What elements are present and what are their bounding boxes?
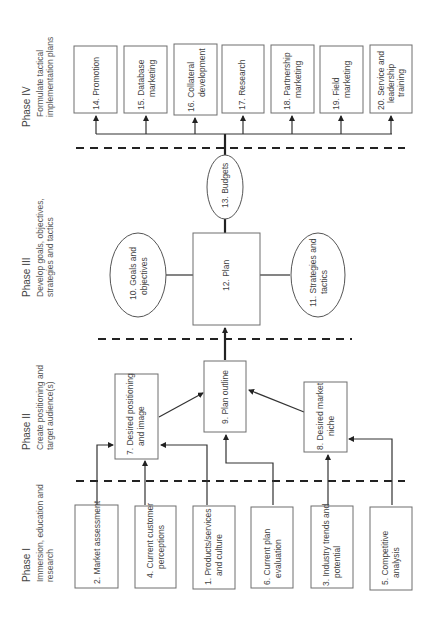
svg-text:Phase IV: Phase IV bbox=[21, 86, 32, 127]
marketing-plan-flowchart: Phase I Immersion, education and researc… bbox=[0, 0, 424, 639]
svg-text:strategies and tactics: strategies and tactics bbox=[45, 217, 55, 297]
svg-text:15. Database: 15. Database bbox=[136, 59, 146, 110]
svg-text:Develop goals, objectives,: Develop goals, objectives, bbox=[35, 198, 45, 297]
svg-text:14. Promotion: 14. Promotion bbox=[91, 57, 101, 110]
phase-1-label: Phase I Immersion, education and researc… bbox=[21, 484, 55, 582]
node-14-promotion: 14. Promotion bbox=[74, 46, 117, 113]
node-20-service-leadership-training: 20. Service and leadership training bbox=[370, 45, 412, 113]
svg-text:objectives: objectives bbox=[139, 257, 149, 295]
svg-text:4. Current customer: 4. Current customer bbox=[145, 503, 155, 578]
svg-text:18. Partnership: 18. Partnership bbox=[282, 52, 292, 110]
node-5-competitive-analysis: 5. Competitive analysis bbox=[370, 507, 412, 590]
svg-text:11. Strategies and: 11. Strategies and bbox=[308, 238, 318, 307]
node-2-market-assessment: 2. Market assessment bbox=[75, 500, 118, 588]
svg-text:1. Products/services: 1. Products/services bbox=[203, 508, 213, 585]
node-18-partnership-marketing: 18. Partnership marketing bbox=[271, 45, 314, 113]
svg-text:and culture: and culture bbox=[214, 534, 224, 576]
svg-text:3. Industry trends and: 3. Industry trends and bbox=[321, 504, 331, 586]
connector-5-to-8 bbox=[349, 439, 392, 505]
svg-text:target audience(s): target audience(s) bbox=[45, 381, 55, 450]
svg-text:training: training bbox=[396, 69, 406, 97]
svg-text:perceptions: perceptions bbox=[156, 525, 166, 569]
connector-2-to-7 bbox=[97, 445, 113, 505]
svg-text:and image: and image bbox=[136, 406, 146, 446]
node-11-strategies-tactics: 11. Strategies and tactics bbox=[291, 233, 345, 317]
svg-text:marketing: marketing bbox=[293, 60, 303, 98]
node-4-current-customer-perceptions: 4. Current customer perceptions bbox=[135, 503, 176, 588]
connector-7-to-9 bbox=[159, 393, 203, 417]
svg-text:Phase I: Phase I bbox=[21, 548, 32, 582]
connector-6-to-9 bbox=[226, 435, 273, 505]
svg-text:implementation plans: implementation plans bbox=[45, 37, 55, 117]
svg-text:7. Desired positioning: 7. Desired positioning bbox=[125, 373, 135, 455]
phase-3-label: Phase III Develop goals, objectives, str… bbox=[21, 198, 55, 297]
svg-text:marketing: marketing bbox=[147, 59, 157, 97]
svg-text:niche: niche bbox=[326, 415, 336, 436]
node-1-products-services-culture: 1. Products/services and culture bbox=[193, 506, 235, 589]
connector-8-to-9 bbox=[249, 390, 304, 412]
svg-text:Immersion, education and: Immersion, education and bbox=[35, 484, 45, 582]
node-17-research: 17. Research bbox=[222, 45, 264, 113]
svg-text:17. Research: 17. Research bbox=[237, 59, 247, 110]
svg-text:6. Current plan: 6. Current plan bbox=[262, 529, 272, 585]
svg-text:12. Plan: 12. Plan bbox=[221, 260, 231, 291]
node-19-field-marketing: 19. Field marketing bbox=[320, 46, 363, 113]
svg-text:9. Plan outline: 9. Plan outline bbox=[220, 370, 230, 424]
node-10-goals-objectives: 10. Goals and objectives bbox=[110, 233, 166, 317]
svg-text:analysis: analysis bbox=[391, 547, 401, 578]
svg-text:research: research bbox=[45, 549, 55, 582]
svg-text:8. Desired market: 8. Desired market bbox=[315, 382, 325, 450]
svg-text:20. Service and: 20. Service and bbox=[376, 51, 386, 110]
svg-text:Phase III: Phase III bbox=[21, 258, 32, 297]
svg-text:tactics: tactics bbox=[319, 270, 329, 294]
phase-2-label: Phase II Create positioning and target a… bbox=[21, 365, 55, 450]
svg-text:Formulate tactical: Formulate tactical bbox=[35, 50, 45, 117]
node-15-database-marketing: 15. Database marketing bbox=[124, 46, 167, 113]
svg-text:marketing: marketing bbox=[342, 60, 352, 98]
node-9-plan-outline: 9. Plan outline bbox=[204, 361, 246, 432]
phase-4-label: Phase IV Formulate tactical implementati… bbox=[21, 37, 55, 127]
connector-1-to-7 bbox=[161, 445, 207, 505]
svg-text:10. Goals and: 10. Goals and bbox=[128, 247, 138, 300]
svg-text:development: development bbox=[197, 48, 207, 97]
node-12-plan: 12. Plan bbox=[193, 233, 260, 325]
svg-text:2. Market assessment: 2. Market assessment bbox=[92, 500, 102, 584]
node-7-desired-positioning-image: 7. Desired positioning and image bbox=[115, 373, 158, 459]
node-16-collateral-development: 16. Collateral development bbox=[174, 44, 217, 115]
svg-text:19. Field: 19. Field bbox=[331, 77, 341, 110]
svg-text:Phase II: Phase II bbox=[21, 413, 32, 450]
node-13-budgets: 13. Budgets bbox=[207, 155, 243, 219]
svg-text:leadership: leadership bbox=[386, 64, 396, 103]
svg-text:5. Competitive: 5. Competitive bbox=[380, 530, 390, 585]
svg-text:13. Budgets: 13. Budgets bbox=[220, 163, 230, 208]
svg-text:16. Collateral: 16. Collateral bbox=[186, 62, 196, 112]
node-8-desired-market-niche: 8. Desired market niche bbox=[304, 382, 347, 452]
svg-text:potential: potential bbox=[332, 546, 342, 578]
svg-text:Create positioning and: Create positioning and bbox=[35, 365, 45, 450]
node-3-industry-trends-potential: 3. Industry trends and potential bbox=[311, 504, 353, 588]
node-6-current-plan-evaluation: 6. Current plan evaluation bbox=[251, 507, 293, 588]
svg-text:evaluation: evaluation bbox=[273, 539, 283, 578]
